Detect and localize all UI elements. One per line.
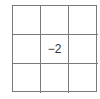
grid-cell-r3-c2 [41,64,69,93]
grid-cell-r3-c1 [13,64,41,93]
grid-cell-r2-c3 [69,35,98,64]
grid-cell-r2-c1 [13,35,41,64]
grid-cell-r1-c2 [41,6,69,35]
grid-cell-r1-c1 [13,6,41,35]
grid-cell-center: −2 [41,35,69,64]
number-grid: −2 [12,5,97,92]
grid-cell-r3-c3 [69,64,98,93]
grid-cell-r1-c3 [69,6,98,35]
